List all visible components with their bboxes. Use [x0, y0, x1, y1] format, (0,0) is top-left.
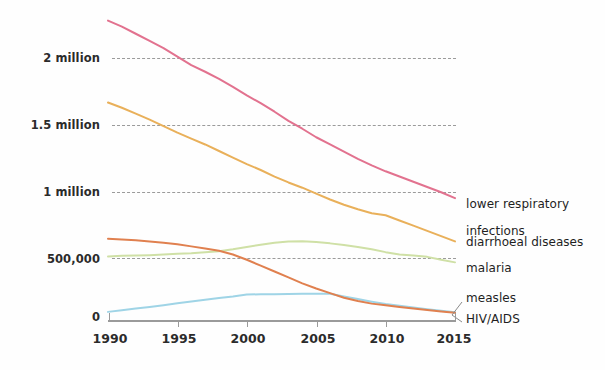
measles-leader-line	[452, 302, 462, 315]
series-label-malaria: malaria	[466, 262, 512, 276]
series-label-measles: measles	[466, 292, 516, 306]
series-label-hivaids: HIV/AIDS	[466, 313, 520, 327]
line-chart: 2 million 1.5 million 1 million 500,000 …	[0, 0, 605, 370]
series-line-lower-respiratory-infections	[108, 21, 455, 199]
x-axis-tick-label: 2015	[437, 331, 472, 346]
x-axis-tick-label: 2005	[301, 331, 336, 346]
series-label-lower-respiratory-infections: lower respiratory infections	[466, 184, 569, 238]
x-axis-tick-label: 2000	[231, 331, 266, 346]
series-line-malaria	[108, 241, 455, 262]
series-line-diarrhoeal-diseases	[108, 103, 455, 242]
x-axis-tick-label: 2010	[370, 331, 405, 346]
x-axis-tick-2000	[247, 320, 248, 327]
x-axis-tick-1995	[178, 320, 179, 327]
x-axis-tick-label: 1990	[93, 331, 128, 346]
series-label-line1: lower respiratory	[466, 197, 569, 211]
x-axis-tick-1990	[109, 313, 110, 321]
series-line-measles	[108, 294, 455, 312]
x-axis-tick-2005	[317, 320, 318, 327]
x-axis-line	[108, 320, 456, 322]
x-axis-tick-2010	[386, 320, 387, 327]
series-line-hivaids	[108, 239, 455, 313]
series-label-diarrhoeal-diseases: diarrhoeal diseases	[466, 236, 583, 250]
x-axis-tick-label: 1995	[162, 331, 197, 346]
x-axis-tick-2015	[455, 313, 456, 321]
